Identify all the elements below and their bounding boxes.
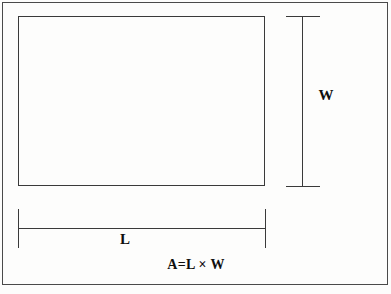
area-formula-label: A=L × W: [126, 258, 266, 272]
rectangle-area-diagram: W L A=L × W: [0, 0, 391, 294]
length-dimension-cap-left: [18, 209, 19, 248]
length-dimension-line: [18, 228, 266, 229]
width-dimension-line: [302, 16, 303, 186]
length-dimension-cap-right: [265, 209, 266, 248]
width-dimension-cap-top: [286, 16, 320, 17]
width-dimension-cap-bottom: [286, 186, 320, 187]
length-label: L: [108, 232, 142, 247]
rectangle-shape: [18, 16, 265, 186]
width-label: W: [313, 88, 339, 103]
